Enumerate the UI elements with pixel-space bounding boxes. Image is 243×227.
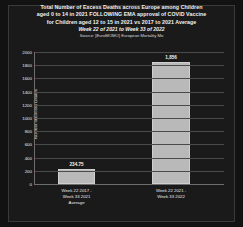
gridline bbox=[35, 78, 224, 79]
gridline bbox=[35, 171, 224, 172]
gridline bbox=[35, 105, 224, 106]
y-tick-label: 200 bbox=[25, 168, 32, 173]
chart-title-line-2: aged 0 to 14 in 2021 FOLLOWING EMA appro… bbox=[0, 11, 243, 18]
y-tick-label: 400 bbox=[25, 155, 32, 160]
y-tick-label: 1200 bbox=[22, 102, 32, 107]
gridline bbox=[35, 118, 224, 119]
chart-subtitle: Week 22 of 2021 to Week 33 of 2022 bbox=[0, 26, 243, 33]
y-tick-label: 600 bbox=[25, 142, 32, 147]
y-tick-label: 2000 bbox=[22, 50, 32, 55]
bar-slot-0: 234.75 Week 22 2017 - Week 33 2021 Avera… bbox=[58, 162, 96, 184]
gridline bbox=[35, 131, 224, 132]
category-label-1: Week 22 2021 - Week 33 2022 bbox=[136, 188, 206, 200]
category-label-0: Week 22 2017 - Week 33 2021 Average bbox=[42, 188, 112, 206]
gridline bbox=[35, 65, 224, 66]
chart-title-line-3: for Children aged 12 to 15 in 2021 vs 20… bbox=[0, 19, 243, 26]
chart-title-block: Total Number of Excess Deaths across Eur… bbox=[0, 4, 243, 39]
bar-slot-1: 1,856 Week 22 2021 - Week 33 2022 bbox=[152, 55, 190, 184]
y-tick-label: 1800 bbox=[22, 63, 32, 68]
y-tick-label: 1600 bbox=[22, 76, 32, 81]
bar-value-label-1: 1,856 bbox=[165, 55, 177, 60]
bar-1[interactable] bbox=[152, 62, 190, 184]
chart-figure: Total Number of Excess Deaths across Eur… bbox=[0, 0, 243, 227]
gridline bbox=[35, 144, 224, 145]
plot-axes: 234.75 Week 22 2017 - Week 33 2021 Avera… bbox=[34, 52, 224, 185]
y-tick-label: 0 bbox=[30, 182, 32, 187]
gridline bbox=[35, 52, 224, 53]
chart-title-line-1: Total Number of Excess Deaths across Eur… bbox=[0, 4, 243, 11]
chart-source-note: Source: [EuroMOMO] European Mortality Mo bbox=[0, 33, 243, 39]
category-label-0-line-2: Average bbox=[42, 200, 112, 206]
y-tick-label: 1000 bbox=[22, 116, 32, 121]
category-label-1-line-1: Week 33 2022 bbox=[136, 194, 206, 200]
y-tick-label: 1400 bbox=[22, 89, 32, 94]
gridline bbox=[35, 158, 224, 159]
gridline bbox=[35, 92, 224, 93]
bar-value-label-0: 234.75 bbox=[70, 162, 84, 167]
y-tick-label: 800 bbox=[25, 129, 32, 134]
